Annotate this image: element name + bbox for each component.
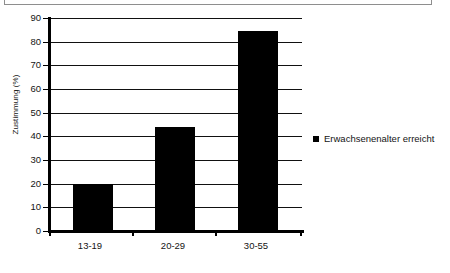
y-tick-label-90-wrap: 90 [0, 13, 41, 23]
y-tick-label-80-wrap: 80 [0, 37, 41, 47]
y-tick-label-0-wrap: 0 [0, 226, 41, 236]
y-tick-label-70: 70 [5, 60, 41, 70]
legend: Erwachsenenalter erreicht [313, 133, 434, 145]
y-tick-label-30-wrap: 30 [0, 155, 41, 165]
x-axis-line [48, 230, 304, 233]
y-axis-line [48, 17, 51, 232]
y-tick-label-40-wrap: 40 [0, 131, 41, 141]
bar-30-55[interactable] [238, 31, 278, 231]
y-tick-label-60: 60 [5, 84, 41, 94]
y-tick-label-50-wrap: 50 [0, 108, 41, 118]
y-tick-label-0: 0 [5, 226, 41, 236]
x-tick-1 [132, 231, 134, 236]
legend-label-erwachsenenalter-erreicht: Erwachsenenalter erreicht [324, 133, 434, 145]
x-tick-start [49, 231, 51, 236]
y-tick-label-20-wrap: 20 [0, 179, 41, 189]
y-tick-label-60-wrap: 60 [0, 84, 41, 94]
bar-20-29[interactable] [155, 127, 195, 231]
y-tick-label-20: 20 [5, 179, 41, 189]
x-tick-label-20-29: 20-29 [138, 240, 208, 252]
y-tick-label-80: 80 [5, 37, 41, 47]
y-tick-label-10: 10 [5, 202, 41, 212]
x-tick-label-13-19: 13-19 [55, 240, 125, 252]
bar-13-19[interactable] [73, 184, 113, 231]
bar-chart: Zustimmung (%) 90 80 70 60 50 40 30 20 1… [0, 0, 450, 273]
gridline-90 [49, 18, 302, 19]
y-tick-label-10-wrap: 10 [0, 202, 41, 212]
x-tick-end [300, 231, 302, 236]
figure: Zustimmung (%) 90 80 70 60 50 40 30 20 1… [0, 0, 450, 273]
y-tick-label-50: 50 [5, 108, 41, 118]
x-tick-2 [215, 231, 217, 236]
plot-area [49, 18, 302, 231]
y-tick-label-30: 30 [5, 155, 41, 165]
y-tick-label-90: 90 [5, 13, 41, 23]
y-tick-label-70-wrap: 70 [0, 60, 41, 70]
x-tick-label-30-55: 30-55 [221, 240, 291, 252]
y-tick-label-40: 40 [5, 131, 41, 141]
legend-swatch-icon [313, 136, 319, 142]
